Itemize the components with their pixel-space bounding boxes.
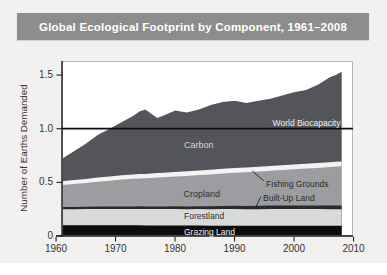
x-tick-label: 1960 (45, 243, 68, 254)
area-label: Cropland (184, 189, 221, 199)
x-tick-label: 1980 (164, 243, 187, 254)
x-tick-label: 2010 (342, 243, 365, 254)
area-label: Grazing Land (184, 227, 235, 237)
area-label: Forestland (184, 211, 224, 221)
area-label: World Biocapacity (273, 118, 342, 128)
x-tick-label: 2000 (283, 243, 306, 254)
stacked-area-chart: 19601970198019902000201000.51.01.5Number… (0, 0, 387, 275)
area-label: Built-Up Land (263, 193, 315, 203)
x-tick-label: 1970 (104, 243, 127, 254)
y-tick-label: 1.0 (39, 123, 53, 134)
x-tick-label: 1990 (223, 243, 246, 254)
y-tick-label: 1.5 (39, 69, 53, 80)
y-axis-title: Number of Earths Demanded (18, 84, 29, 211)
area-label: Carbon (184, 140, 214, 150)
y-tick-label: 0 (47, 230, 53, 241)
area-label: Fishing Grounds (266, 179, 328, 189)
y-tick-label: 0.5 (39, 176, 53, 187)
